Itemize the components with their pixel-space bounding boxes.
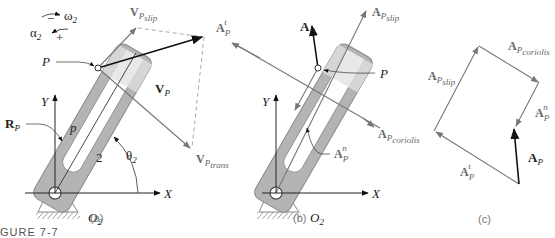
aslip-label-c: APslip <box>428 69 456 87</box>
vp-label: VP <box>155 81 170 98</box>
panel-b-caption: (b) <box>293 212 306 224</box>
point-p-marker <box>95 65 101 71</box>
panel-c-caption: (c) <box>478 213 491 225</box>
vslip-label: VPslip <box>130 5 158 23</box>
ap-vector-c <box>514 129 519 184</box>
ap-label-b: AP <box>300 19 315 36</box>
dashed-construction-2 <box>192 37 204 148</box>
point-p-label-b: P <box>379 66 388 81</box>
rp-leader <box>26 124 62 141</box>
at-vector <box>232 43 260 58</box>
y-axis-label-b: Y <box>262 94 271 109</box>
plus-sign: + <box>56 30 63 45</box>
x-axis-label-b: X <box>371 186 381 201</box>
acoriolis-label-b: APcoriolis <box>378 127 420 145</box>
panel-c: APslip APcoriolis APn AP APt (c) <box>428 39 550 225</box>
aslip-vector-c <box>434 47 478 131</box>
panel-a: ω2 − α2 + P Y X O2 2 θ2 RP p VP VPslip V… <box>5 5 229 227</box>
panel-a-caption: (a) <box>90 212 103 224</box>
omega-label: ω2 <box>64 8 78 25</box>
alpha-label: α2 <box>30 25 42 42</box>
dashed-construction-1 <box>138 28 204 37</box>
minus-sign: − <box>47 11 54 26</box>
aslip-vector <box>276 11 366 193</box>
p-leader-a <box>56 62 94 66</box>
vtrans-label: VPtrans <box>196 152 229 170</box>
acoriolis-arrowhead <box>363 118 374 127</box>
slotted-link-b <box>252 41 376 215</box>
an-label-c: APn <box>535 102 550 123</box>
position-vector-rp <box>55 53 136 193</box>
point-p-label: P <box>41 54 50 69</box>
an-label-b: APn <box>334 143 349 164</box>
at-vector-c <box>436 132 519 184</box>
acoriolis-label-c: APcoriolis <box>508 39 550 57</box>
link-number: 2 <box>96 150 103 165</box>
theta-arc <box>114 137 138 193</box>
aslip-label-b: APslip <box>372 5 400 23</box>
at-label-c: APt <box>460 161 475 182</box>
y-axis-label-a: Y <box>41 94 50 109</box>
ap-label-c: AP <box>528 150 543 167</box>
at-label-b: APt <box>216 17 231 38</box>
origin-label-b: O2 <box>310 210 324 227</box>
p-length-label: p <box>69 120 77 135</box>
point-p-marker-b <box>315 65 321 71</box>
panel-b: APt AP APslip P APcoriolis APn Y X O2 (b… <box>216 5 420 227</box>
figure-7-7: ω2 − α2 + P Y X O2 2 θ2 RP p VP VPslip V… <box>0 0 555 238</box>
rp-label: RP <box>5 116 20 133</box>
figure-caption: GURE 7-7 <box>0 226 59 238</box>
theta-label: θ2 <box>126 148 137 165</box>
x-axis-label-a: X <box>163 186 173 201</box>
